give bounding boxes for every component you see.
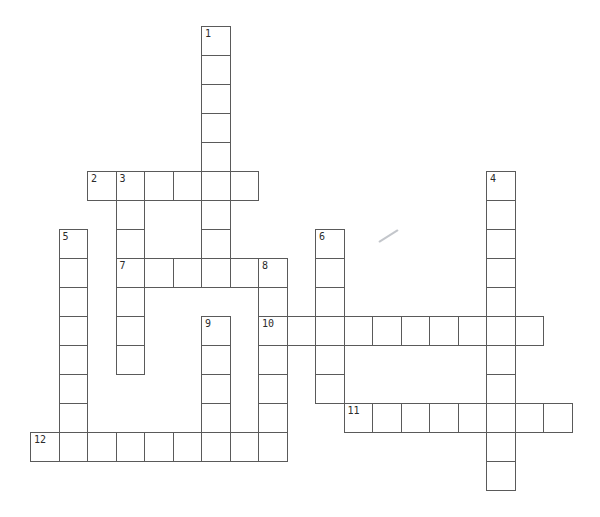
crossword-cell[interactable] [201, 200, 231, 230]
crossword-cell[interactable] [344, 316, 374, 346]
crossword-cell[interactable] [486, 461, 516, 491]
crossword-cell[interactable] [201, 258, 231, 288]
crossword-cell[interactable]: 11 [344, 403, 374, 433]
crossword-cell[interactable] [59, 432, 89, 462]
crossword-cell[interactable] [230, 258, 260, 288]
crossword-cell[interactable]: 3 [116, 171, 146, 201]
cell-number: 4 [490, 174, 496, 184]
crossword-cell[interactable] [486, 229, 516, 259]
crossword-cell[interactable] [201, 403, 231, 433]
crossword-cell[interactable] [315, 374, 345, 404]
cell-number: 6 [319, 232, 325, 242]
crossword-cell[interactable] [458, 316, 488, 346]
crossword-cell[interactable] [401, 316, 431, 346]
crossword-cell[interactable] [258, 432, 288, 462]
crossword-cell[interactable] [59, 403, 89, 433]
crossword-cell[interactable] [201, 142, 231, 172]
crossword-cell[interactable]: 7 [116, 258, 146, 288]
crossword-cell[interactable] [486, 200, 516, 230]
crossword-cell[interactable] [258, 345, 288, 375]
crossword-cell[interactable] [144, 432, 174, 462]
crossword-cell[interactable] [201, 171, 231, 201]
crossword-cell[interactable]: 1 [201, 26, 231, 56]
crossword-cell[interactable] [315, 316, 345, 346]
crossword-cell[interactable] [144, 258, 174, 288]
crossword-cell[interactable] [116, 229, 146, 259]
crossword-cell[interactable] [59, 287, 89, 317]
crossword-cell[interactable] [486, 258, 516, 288]
cell-number: 9 [205, 319, 211, 329]
crossword-cell[interactable] [201, 432, 231, 462]
crossword-cell[interactable] [543, 403, 573, 433]
crossword-cell[interactable] [486, 287, 516, 317]
crossword-cell[interactable]: 8 [258, 258, 288, 288]
cell-number: 5 [63, 232, 69, 242]
crossword-cell[interactable] [144, 171, 174, 201]
cell-number: 8 [262, 261, 268, 271]
cell-number: 10 [262, 319, 274, 329]
crossword-cell[interactable] [201, 374, 231, 404]
crossword-cell[interactable] [486, 345, 516, 375]
crossword-cell[interactable] [201, 345, 231, 375]
crossword-cell[interactable] [258, 403, 288, 433]
crossword-cell[interactable] [201, 84, 231, 114]
crossword-cell[interactable] [515, 316, 545, 346]
crossword-cell[interactable] [372, 316, 402, 346]
crossword-cell[interactable] [401, 403, 431, 433]
crossword-cell[interactable] [315, 287, 345, 317]
crossword-cell[interactable]: 4 [486, 171, 516, 201]
crossword-cell[interactable] [458, 403, 488, 433]
crossword-cell[interactable] [230, 432, 260, 462]
crossword-cell[interactable] [230, 171, 260, 201]
cell-number: 3 [120, 174, 126, 184]
crossword-cell[interactable] [429, 316, 459, 346]
crossword-cell[interactable] [201, 55, 231, 85]
cell-number: 1 [205, 29, 211, 39]
crossword-cell[interactable] [372, 403, 402, 433]
crossword-cell[interactable] [116, 287, 146, 317]
crossword-cell[interactable] [173, 171, 203, 201]
crossword-cell[interactable]: 6 [315, 229, 345, 259]
crossword-cell[interactable] [87, 432, 117, 462]
crossword-grid: 123745681091112 [0, 0, 600, 517]
cell-number: 11 [348, 406, 360, 416]
crossword-cell[interactable] [116, 432, 146, 462]
crossword-cell[interactable] [201, 229, 231, 259]
crossword-cell[interactable] [173, 258, 203, 288]
crossword-cell[interactable] [59, 345, 89, 375]
crossword-cell[interactable]: 2 [87, 171, 117, 201]
crossword-cell[interactable] [59, 258, 89, 288]
crossword-cell[interactable] [315, 345, 345, 375]
crossword-cell[interactable]: 10 [258, 316, 288, 346]
crossword-cell[interactable] [486, 316, 516, 346]
crossword-cell[interactable]: 12 [30, 432, 60, 462]
crossword-cell[interactable] [429, 403, 459, 433]
crossword-cell[interactable] [258, 374, 288, 404]
cell-number: 2 [91, 174, 97, 184]
crossword-cell[interactable] [173, 432, 203, 462]
crossword-cell[interactable] [515, 403, 545, 433]
crossword-cell[interactable] [116, 316, 146, 346]
crossword-cell[interactable] [486, 374, 516, 404]
crossword-cell[interactable] [486, 432, 516, 462]
crossword-cell[interactable]: 9 [201, 316, 231, 346]
cell-number: 12 [34, 435, 46, 445]
crossword-cell[interactable] [201, 113, 231, 143]
crossword-cell[interactable] [116, 200, 146, 230]
crossword-cell[interactable] [486, 403, 516, 433]
crossword-cell[interactable] [59, 374, 89, 404]
crossword-cell[interactable] [258, 287, 288, 317]
cell-number: 7 [120, 261, 126, 271]
crossword-cell[interactable] [116, 345, 146, 375]
crossword-cell[interactable] [287, 316, 317, 346]
crossword-cell[interactable] [59, 316, 89, 346]
crossword-cell[interactable] [315, 258, 345, 288]
crossword-page: 123745681091112 [0, 0, 600, 517]
crossword-cell[interactable]: 5 [59, 229, 89, 259]
